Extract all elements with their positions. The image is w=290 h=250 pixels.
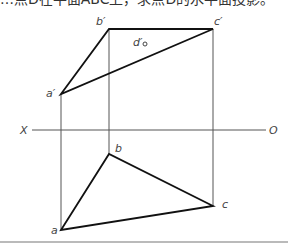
label-a-prime: a′ (46, 87, 56, 100)
top-view-triangle (61, 154, 213, 230)
label-b: b (115, 142, 122, 155)
label-c-prime: c′ (214, 15, 223, 28)
label-d-prime: d′ (133, 36, 143, 49)
label-a: a (51, 224, 58, 237)
label-b-prime: b′ (96, 15, 106, 28)
label-axis-x: X (19, 124, 28, 137)
label-c: c (222, 198, 228, 211)
orthographic-projection-diagram: a′ b′ c′ d′ b c a X O (0, 0, 290, 250)
d-prime-point (143, 42, 147, 46)
label-axis-o: O (269, 124, 278, 137)
